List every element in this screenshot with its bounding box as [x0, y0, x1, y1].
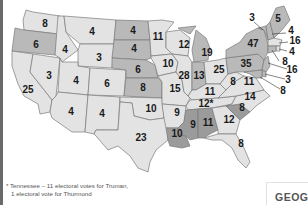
label-NV: 3	[46, 70, 52, 81]
label-UT: 4	[73, 75, 79, 86]
label-IN: 13	[193, 70, 205, 81]
label-MD: 8	[280, 85, 286, 96]
state-MA	[268, 38, 282, 46]
label-ID: 4	[62, 44, 68, 55]
label-CO: 6	[104, 78, 110, 89]
label-NC: 14	[244, 91, 256, 102]
label-KY: 11	[205, 86, 216, 97]
label-VT: 3	[249, 12, 255, 23]
footnote: * Tennessee – 11 electoral votes for Tru…	[6, 182, 128, 197]
label-CA: 25	[22, 84, 34, 95]
footnote-line-2: 1 electoral vote for Thurmond	[6, 190, 128, 198]
state-CT	[268, 46, 276, 53]
label-OH: 25	[213, 64, 225, 75]
label-MO: 15	[169, 83, 181, 94]
label-MI: 19	[201, 47, 213, 58]
label-OR: 6	[33, 39, 39, 50]
label-WA: 8	[42, 18, 48, 29]
label-GA: 12	[223, 114, 235, 125]
label-NE: 6	[135, 64, 141, 75]
label-ME: 5	[275, 13, 281, 24]
label-PA: 35	[240, 58, 252, 69]
label-RI: 4	[289, 46, 295, 57]
label-MS: 9	[190, 119, 196, 130]
label-AR: 9	[174, 107, 180, 118]
label-NY: 47	[247, 38, 259, 49]
label-TX: 23	[135, 132, 147, 143]
state-RI	[276, 46, 280, 51]
label-TN: 12*	[198, 98, 213, 109]
label-KS: 8	[140, 82, 146, 93]
label-WY: 3	[96, 52, 102, 63]
label-WI: 12	[178, 39, 190, 50]
corner-label-box: GEOGR	[266, 182, 308, 205]
label-OK: 10	[145, 103, 157, 114]
label-IA: 10	[162, 58, 174, 69]
label-LA: 10	[171, 128, 183, 139]
label-ND: 4	[130, 25, 136, 36]
label-MT: 4	[89, 26, 95, 37]
us-electoral-map: 8 6 25 3 4 4 3 4 6 4 4 4 4 6 8 10 23 11 …	[0, 0, 308, 205]
label-NM: 4	[99, 108, 105, 119]
label-FL: 8	[238, 138, 244, 149]
label-MN: 11	[153, 31, 164, 42]
label-WV: 8	[230, 76, 236, 87]
label-AZ: 4	[68, 106, 74, 117]
label-AL: 11	[203, 117, 214, 128]
label-MA: 16	[289, 35, 301, 46]
corner-label: GEOGR	[275, 191, 308, 203]
label-SD: 4	[131, 43, 137, 54]
footnote-line-1: * Tennessee – 11 electoral votes for Tru…	[6, 182, 128, 190]
label-SC: 8	[239, 102, 245, 113]
label-VA: 11	[244, 76, 255, 87]
label-DE: 3	[285, 74, 291, 85]
label-IL: 28	[178, 70, 190, 81]
